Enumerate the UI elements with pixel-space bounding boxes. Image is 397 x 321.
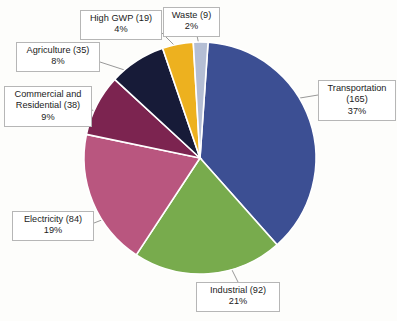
slice-label-line: Agriculture (35): [21, 45, 95, 56]
leader-line-industrial: [232, 270, 238, 282]
slice-label-high-gwp: High GWP (19) 4%: [80, 10, 162, 40]
slice-label-industrial: Industrial (92) 21%: [196, 282, 280, 312]
slice-label-commercial-and-residential: Commercial and Residential (38) 9%: [4, 86, 92, 127]
pie-chart-figure: Transportation (165) 37% Industrial (92)…: [0, 0, 397, 321]
slice-label-electricity: Electricity (84) 19%: [12, 211, 94, 241]
slice-label-line: Commercial and: [9, 89, 87, 100]
slice-label-line: Transportation: [323, 83, 391, 94]
slice-label-line: Residential (38): [9, 100, 87, 111]
slice-label-line: (165): [323, 94, 391, 105]
slice-label-line: 19%: [17, 225, 89, 236]
slice-label-line: 37%: [323, 106, 391, 117]
pie-slices-group: [84, 42, 316, 274]
slice-label-line: 9%: [9, 112, 87, 123]
slice-label-line: 21%: [201, 296, 275, 307]
leader-line-transportation: [300, 95, 318, 98]
slice-label-waste: Waste (9) 2%: [163, 7, 220, 37]
slice-label-line: Industrial (92): [201, 285, 275, 296]
slice-label-line: 2%: [168, 21, 215, 32]
slice-label-line: 8%: [21, 56, 95, 67]
slice-label-transportation: Transportation (165) 37%: [318, 80, 396, 121]
slice-label-agriculture: Agriculture (35) 8%: [16, 42, 100, 72]
slice-label-line: 4%: [85, 24, 157, 35]
slice-label-line: Electricity (84): [17, 214, 89, 225]
slice-label-line: High GWP (19): [85, 13, 157, 24]
slice-label-line: Waste (9): [168, 10, 215, 21]
